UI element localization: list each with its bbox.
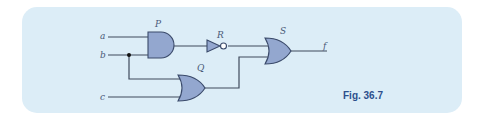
- gate-label-p: P: [154, 19, 162, 29]
- input-label-a: a: [100, 31, 105, 41]
- wire-q-to-s: [203, 57, 268, 88]
- not-bubble: [221, 43, 227, 49]
- wire-b-to-q: [129, 55, 181, 79]
- gate-label-q: Q: [197, 63, 205, 73]
- not-gate-r: [207, 40, 220, 52]
- or-gate-s: [265, 38, 291, 64]
- input-label-c: c: [100, 92, 105, 102]
- and-gate-p: [148, 32, 174, 58]
- figure-caption: Fig. 36.7: [343, 90, 383, 101]
- or-gate-q: [178, 75, 205, 101]
- gate-label-s: S: [280, 26, 286, 36]
- output-label-f: f: [322, 41, 328, 51]
- junction-dot: [127, 53, 131, 57]
- input-label-b: b: [100, 50, 106, 60]
- logic-circuit-diagram: a b c P R Q S f: [0, 0, 485, 119]
- gate-label-r: R: [216, 30, 224, 40]
